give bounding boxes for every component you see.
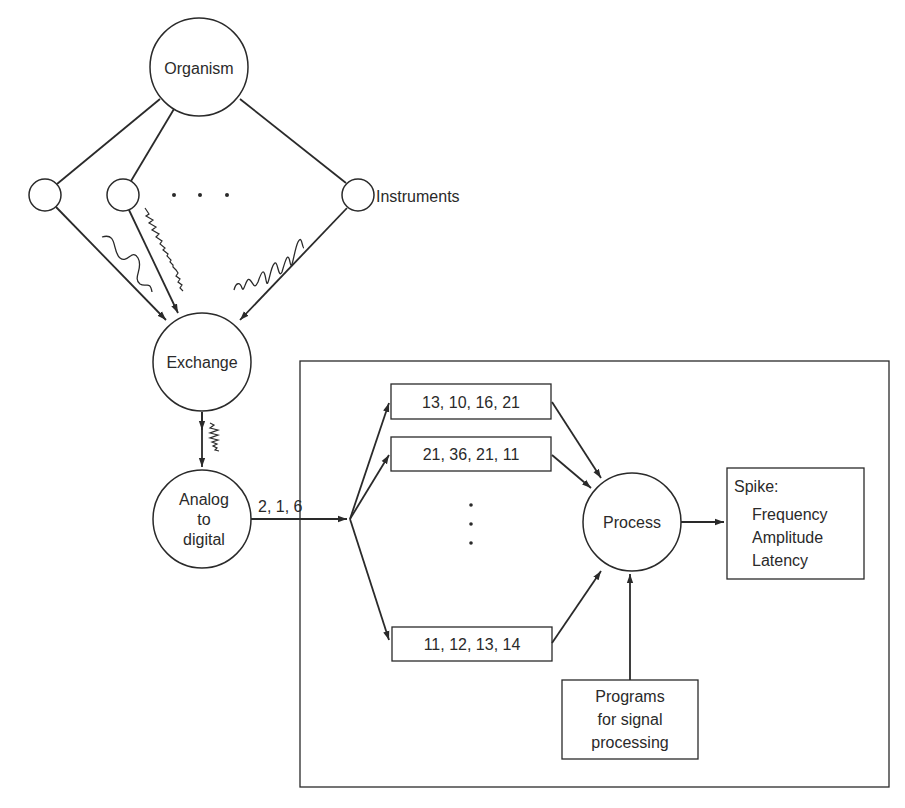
adc-label-line-3: digital <box>183 531 225 548</box>
demux-fanout-arrows <box>350 403 389 640</box>
spike-metric-frequency: Frequency <box>752 506 828 523</box>
analog-to-digital-node: Analog to digital <box>153 470 251 568</box>
signal-processing-diagram: Organism Instruments Exchange <box>0 0 905 808</box>
buffer-ellipsis-dots <box>469 503 473 545</box>
instrument-node-2 <box>107 179 139 211</box>
instrument-ellipsis-dots <box>172 193 229 197</box>
buffer-n-values: 11, 12, 13, 14 <box>424 636 521 653</box>
instrument-node-1 <box>29 179 61 211</box>
organism-node: Organism <box>150 18 248 116</box>
adc-label-line-1: Analog <box>179 491 229 508</box>
organism-label: Organism <box>164 60 233 77</box>
spike-metric-latency: Latency <box>752 552 808 569</box>
spike-title: Spike: <box>734 478 778 495</box>
adc-label-line-2: to <box>197 511 210 528</box>
analog-waveform-2-icon <box>145 208 183 291</box>
instruments-label: Instruments <box>376 188 460 205</box>
signal-processing-programs-box: Programs for signal processing <box>562 680 698 759</box>
buffer-1-values: 13, 10, 16, 21 <box>422 394 520 411</box>
instrument-node-n <box>342 179 374 211</box>
process-label: Process <box>603 514 661 531</box>
exchange-node: Exchange <box>153 313 251 411</box>
buffer-2-values: 21, 36, 21, 11 <box>423 446 520 463</box>
instrument-to-exchange-arrows <box>56 207 347 320</box>
programs-label-line-3: processing <box>591 734 668 751</box>
exchange-label: Exchange <box>166 354 237 371</box>
exchange-output-waveform-icon <box>210 423 219 451</box>
sample-stream-label: 2, 1, 6 <box>258 498 303 515</box>
buffer-box-n: 11, 12, 13, 14 <box>392 627 552 661</box>
programs-label-line-2: for signal <box>598 711 663 728</box>
buffer-box-2: 21, 36, 21, 11 <box>391 437 551 471</box>
programs-label-line-1: Programs <box>595 688 664 705</box>
spike-metric-amplitude: Amplitude <box>752 529 823 546</box>
process-node: Process <box>583 473 681 571</box>
buffer-box-1: 13, 10, 16, 21 <box>391 384 551 419</box>
spike-output-box: Spike: Frequency Amplitude Latency <box>727 468 864 579</box>
